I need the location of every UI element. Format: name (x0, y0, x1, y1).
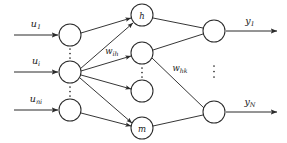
weight-label-whk: whk (172, 63, 187, 74)
input-ellipsis-1-dot-c (69, 57, 71, 59)
edge-inputi-to-hidden-3 (81, 75, 131, 89)
output-signal-labels-group: y1 yN (243, 15, 255, 109)
output-label-yN-sub: N (249, 101, 256, 109)
hidden-nodes-group: h m (131, 4, 153, 139)
output-ellipsis-group (213, 65, 215, 78)
input-ellipsis-2-dot-a (69, 86, 71, 88)
input-ellipsis-2-dot-b (69, 91, 71, 93)
weight-label-wih: wih (105, 46, 118, 57)
output-node-1[interactable] (203, 20, 225, 42)
input-label-ui-sub: i (38, 60, 40, 68)
edge-inputi-to-hidden-2 (81, 56, 131, 71)
hidden-ellipsis-dot-b (141, 72, 143, 74)
input-label-u1: u1 (31, 18, 41, 31)
neural-network-diagram: h m (0, 0, 287, 143)
weight-label-whk-sub: hk (180, 67, 188, 74)
hidden-node-h-label: h (139, 11, 144, 21)
output-label-y1: y1 (244, 15, 255, 28)
output-ellipsis-dot-a (213, 65, 215, 67)
input-to-hidden-edges-group (80, 18, 133, 126)
input-label-ui: ui (32, 55, 40, 68)
hidden-ellipsis-dot-a (141, 67, 143, 69)
edge-inputn-to-hidden-m (81, 113, 131, 126)
input-ellipsis-1-dot-a (69, 48, 71, 50)
edge-inputi-to-hidden-m (80, 78, 132, 123)
output-label-y1-sub: 1 (251, 20, 255, 28)
output-arrows-group (226, 31, 277, 112)
input-ellipsis-2-dot-c (69, 95, 71, 97)
input-node-i[interactable] (59, 61, 81, 83)
hidden-ellipsis-group (141, 67, 143, 78)
weight-label-wih-sub: ih (113, 50, 119, 57)
network-canvas: h m (0, 0, 287, 143)
output-ellipsis-dot-c (213, 76, 215, 78)
input-label-u1-sub: 1 (37, 23, 41, 31)
edge-hidden-h-to-output1 (153, 18, 203, 28)
output-node-N[interactable] (203, 101, 225, 123)
hidden-node-m-label: m (138, 124, 146, 134)
input-nodes-group (59, 24, 81, 121)
input-node-1[interactable] (59, 24, 81, 46)
input-signal-labels-group: u1 ui uni (30, 18, 42, 106)
output-ellipsis-dot-b (213, 71, 215, 73)
output-label-yN: yN (243, 96, 255, 109)
edge-hidden-m-to-outputN (153, 115, 203, 126)
input-label-uni-sub: ni (36, 98, 42, 106)
input-ellipsis-1-dot-b (69, 53, 71, 55)
input-node-n[interactable] (59, 99, 81, 121)
hidden-node-2[interactable] (131, 42, 153, 64)
input-label-uni: uni (30, 93, 42, 106)
edge-hidden-2-to-output1 (153, 34, 203, 50)
hidden-ellipsis-dot-c (141, 76, 143, 78)
hidden-node-3[interactable] (131, 80, 153, 102)
